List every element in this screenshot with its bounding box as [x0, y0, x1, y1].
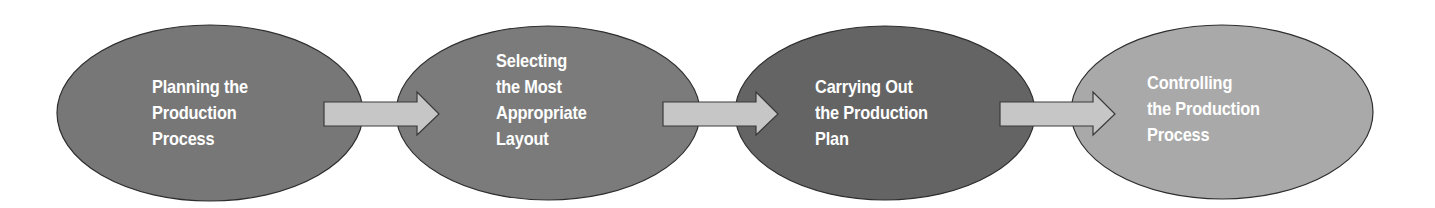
- step-3-line-3: Plan: [815, 126, 928, 152]
- step-1-label: Planning the Production Process: [152, 74, 248, 152]
- step-3-label: Carrying Out the Production Plan: [815, 74, 928, 152]
- step-4-line-3: Process: [1147, 122, 1260, 148]
- step-2-line-1: Selecting: [496, 48, 587, 74]
- step-2-line-3: Appropriate: [496, 100, 587, 126]
- step-1-line-3: Process: [152, 126, 248, 152]
- step-3-line-2: the Production: [815, 100, 928, 126]
- process-flow-diagram: Planning the Production Process Selectin…: [0, 0, 1435, 208]
- step-4-line-1: Controlling: [1147, 70, 1260, 96]
- step-2-line-2: the Most: [496, 74, 587, 100]
- step-2-label: Selecting the Most Appropriate Layout: [496, 48, 587, 152]
- step-1-line-1: Planning the: [152, 74, 248, 100]
- step-2-line-4: Layout: [496, 126, 587, 152]
- step-3-line-1: Carrying Out: [815, 74, 928, 100]
- step-4-label: Controlling the Production Process: [1147, 70, 1260, 148]
- step-4-line-2: the Production: [1147, 96, 1260, 122]
- step-1-line-2: Production: [152, 100, 248, 126]
